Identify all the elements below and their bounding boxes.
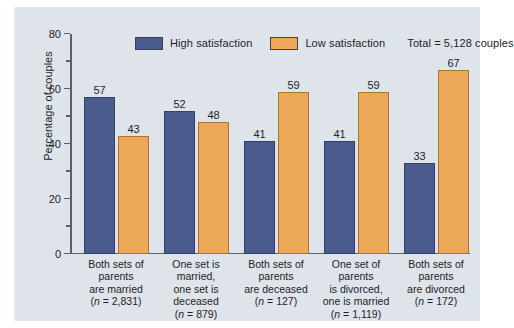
bar-value-low-3: 59 [367,79,379,91]
bar-low-2: 59 [278,92,309,254]
x-label-1-line-1: married, [152,270,240,282]
bar-low-3: 59 [358,92,389,254]
x-label-3-line-0: One set of [312,258,400,270]
x-label-1-line-2: one set is [152,283,240,295]
bar-group-4: 33 67 [396,34,476,254]
x-label-4-n: (n = 172) [392,295,480,307]
x-label-1: One set is married, one set is deceased … [152,258,240,320]
bar-value-high-0: 57 [93,84,105,96]
bar-low-4: 67 [438,70,469,254]
bar-group-2: 41 59 [236,34,316,254]
y-tick-label-60: 60 [49,83,61,95]
bar-high-4: 33 [404,163,435,254]
bar-low-0: 43 [118,136,149,254]
bar-value-high-2: 41 [253,128,265,140]
bar-high-2: 41 [244,141,275,254]
bar-value-low-1: 48 [207,109,219,121]
x-label-4-line-1: parents [392,270,480,282]
x-label-3-line-3: one is married [312,295,400,307]
x-label-0: Both sets of parents are married (n = 2,… [72,258,160,308]
x-label-0-n: (n = 2,831) [72,295,160,307]
y-tick-label-20: 20 [49,193,61,205]
x-axis-category-labels: Both sets of parents are married (n = 2,… [70,258,470,328]
x-label-2-line-1: parents [232,270,320,282]
bar-value-high-1: 52 [173,98,185,110]
bar-series-container: 57 43 52 48 [70,34,470,254]
bar-group-3: 41 59 [316,34,396,254]
bar-high-3: 41 [324,141,355,254]
bar-high-1: 52 [164,111,195,254]
x-label-4-line-2: are divorced [392,283,480,295]
bar-value-low-4: 67 [447,57,459,69]
bar-high-0: 57 [84,97,115,254]
x-label-0-line-1: parents [72,270,160,282]
y-tick-label-40: 40 [49,138,61,150]
bar-low-1: 48 [198,122,229,254]
x-label-3-n: (n = 1,119) [312,308,400,320]
bar-value-low-0: 43 [127,123,139,135]
x-label-4: Both sets of parents are divorced (n = 1… [392,258,480,308]
x-label-3: One set of parents is divorced, one is m… [312,258,400,320]
x-label-4-line-0: Both sets of [392,258,480,270]
y-tick-label-80: 80 [49,28,61,40]
x-label-3-line-2: is divorced, [312,283,400,295]
chart-panel: High satisfaction Low satisfaction Total… [15,8,479,320]
x-label-0-line-2: are married [72,283,160,295]
bar-group-0: 57 43 [76,34,156,254]
x-label-2-n: (n = 127) [232,295,320,307]
x-label-2-line-0: Both sets of [232,258,320,270]
y-axis-title: Percentage of couples [42,31,54,181]
x-label-1-n: (n = 879) [152,308,240,320]
bar-value-high-4: 33 [413,150,425,162]
x-label-3-line-1: parents [312,270,400,282]
bar-value-high-3: 41 [333,128,345,140]
y-tick-label-0: 0 [55,248,61,260]
x-label-2: Both sets of parents are deceased (n = 1… [232,258,320,308]
x-label-2-line-2: are deceased [232,283,320,295]
plot-area: 80 60 40 20 0 57 43 52 [70,34,470,254]
bar-group-1: 52 48 [156,34,236,254]
x-label-1-line-0: One set is [152,258,240,270]
x-label-1-line-3: deceased [152,295,240,307]
x-label-0-line-0: Both sets of [72,258,160,270]
bar-value-low-2: 59 [287,79,299,91]
